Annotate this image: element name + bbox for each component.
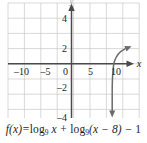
x-tick-label-10: 10: [111, 66, 121, 77]
y-tick-label-neg4: –4: [56, 112, 67, 123]
caption-equals: =: [22, 123, 30, 135]
x-tick-label-5: 5: [88, 66, 93, 77]
caption-plus: +: [60, 123, 68, 135]
coordinate-plane: –10 –5 0 5 10 4 2 –2 –4 x y: [0, 0, 147, 143]
caption-log2-name: log: [70, 123, 85, 135]
y-tick-label-4: 4: [62, 13, 67, 24]
x-tick-label-neg5: –5: [40, 66, 51, 77]
caption-log2-arg: (x − 8): [89, 123, 122, 135]
y-axis-label: y: [69, 0, 74, 6]
function-curve: [109, 46, 131, 117]
x-tick-label-zero: 0: [63, 66, 68, 77]
caption-log1-base: 9: [45, 128, 49, 137]
caption-function-arg: (x): [9, 123, 22, 135]
grid-lines: [8, 3, 139, 118]
function-caption: f(x)=log9 x + log9(x − 8) − 1: [0, 123, 147, 137]
caption-constant: 1: [135, 123, 141, 135]
x-axis-label: x: [136, 58, 142, 69]
curve-arrow-down: [109, 111, 115, 118]
caption-log1-name: log: [30, 123, 45, 135]
y-tick-label-2: 2: [62, 43, 67, 54]
x-tick-label-neg10: –10: [13, 66, 29, 77]
log-function-figure: –10 –5 0 5 10 4 2 –2 –4 x y f(x)=log9 x …: [0, 0, 147, 143]
caption-log1-arg: x: [52, 123, 57, 135]
caption-minus: −: [125, 123, 133, 135]
y-tick-label-neg2: –2: [56, 82, 67, 93]
